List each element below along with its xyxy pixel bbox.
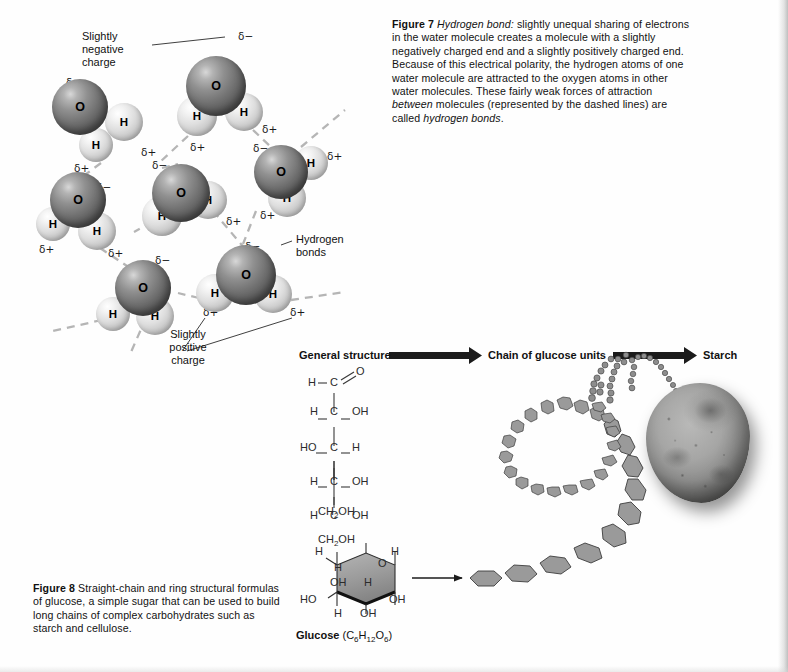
partial-positive-charge: δ+ (327, 150, 342, 162)
hydrogen-atom: H (105, 103, 143, 141)
oxygen-atom: O (254, 145, 308, 199)
figure-8-label: Figure 8 (33, 582, 75, 594)
partial-positive-charge: δ+ (290, 306, 305, 318)
partial-positive-charge: δ+ (141, 146, 156, 158)
partial-negative-charge: δ− (238, 30, 253, 42)
chain-substituent-right-3: OH (352, 475, 369, 487)
partial-positive-charge: δ+ (108, 247, 123, 259)
glucose-name: Glucose (C6H12O6) (296, 629, 392, 644)
chain-substituent-right-1: OH (352, 405, 369, 417)
ring-h-upper-left: H (315, 545, 323, 557)
figure-7-body-3: . (501, 112, 504, 124)
page-edge-shadow-right (778, 0, 788, 672)
oxygen-atom-label: O (52, 79, 108, 135)
label-line: positive (148, 341, 228, 354)
oxygen-atom-label: O (186, 56, 246, 116)
oxygen-atom: O (216, 245, 276, 305)
oxygen-atom-label: O (115, 260, 171, 316)
label-line: charge (82, 56, 152, 69)
figure-7-caption: Figure 7 Hydrogen bond: slightly unequal… (392, 18, 692, 125)
heading-chain-of-glucose-units: Chain of glucose units (488, 349, 606, 361)
ring-oh-right: OH (389, 593, 406, 605)
oxygen-atom-label: O (216, 245, 276, 305)
chain-substituent-left-3: H (310, 475, 318, 487)
partial-positive-charge: δ+ (39, 243, 54, 255)
label-line: bonds (296, 246, 376, 259)
label-hydrogen-bonds: Hydrogen bonds (296, 233, 376, 259)
chain-carbon-3: C (330, 441, 338, 453)
ring-ch2oh-group: CH2OH (318, 533, 355, 548)
chain-oxygen-double: O (356, 365, 365, 377)
label-line: charge (148, 354, 228, 367)
oxygen-atom-label: O (254, 145, 308, 199)
hydrogen-atom-label: H (105, 103, 143, 141)
ring-ho-left: HO (300, 593, 317, 605)
ring-h-upper-right: H (391, 545, 399, 557)
ring-oxygen: O (378, 557, 387, 569)
label-line: negative (82, 43, 152, 56)
potato-photograph (642, 379, 754, 509)
ring-oh-bottom: OH (360, 607, 377, 619)
figure-7-italic-2: between (392, 98, 433, 110)
oxygen-atom-label: O (50, 172, 106, 228)
chain-substituent-right-2: H (352, 441, 360, 453)
chain-terminal-ch2oh: CH2OH (318, 505, 355, 520)
figure-7-term: Hydrogen bond: (437, 18, 514, 30)
label-line: Hydrogen (296, 233, 376, 246)
figure-page: HHOHHOHHOHHOHHOHHOHHO δ−δ+δ+δ−δ+δ+δ−δ−δ+… (0, 0, 788, 672)
heading-starch: Starch (703, 349, 737, 361)
label-slightly-negative-charge: Slightly negative charge (82, 30, 152, 70)
label-line: Slightly (82, 30, 152, 43)
figure-7-italic-3: hydrogen bonds (423, 112, 500, 124)
glucose-formula: (C6H12O6) (339, 629, 392, 641)
oxygen-atom: O (186, 56, 246, 116)
straight-chain-bonds (316, 372, 356, 508)
oxygen-atom: O (115, 260, 171, 316)
potato-body (646, 383, 750, 503)
chain-carbon-2: C (330, 405, 338, 417)
heading-general-structure: General structure (299, 349, 391, 361)
oxygen-atom-label: O (152, 164, 210, 222)
partial-positive-charge: δ+ (262, 123, 277, 135)
ring-h-inner-top: H (334, 561, 342, 573)
glucose-name-bold: Glucose (296, 629, 339, 641)
glucose-unit-chain (470, 397, 646, 586)
ring-h-inner-right: H (364, 576, 372, 588)
oxygen-atom: O (52, 79, 108, 135)
chain-substituent-left-1: H (310, 405, 318, 417)
ring-h-bottom: H (334, 607, 342, 619)
chain-carbon-4: C (330, 475, 338, 487)
figure-7-label: Figure 7 (392, 18, 434, 30)
partial-positive-charge: δ+ (226, 215, 241, 227)
oxygen-atom: O (152, 164, 210, 222)
ring-oh-inner: OH (330, 576, 347, 588)
partial-positive-charge: δ+ (190, 141, 205, 153)
chain-carbon-1: C (330, 376, 338, 388)
chain-substituent-left-2: HO (300, 441, 317, 453)
figure-8-caption: Figure 8 Straight-chain and ring structu… (33, 582, 285, 636)
oxygen-atom: O (50, 172, 106, 228)
chain-substituent-left-4: H (310, 509, 318, 521)
chain-h-top: H (308, 376, 316, 388)
page-edge-shadow-bottom (0, 666, 788, 672)
